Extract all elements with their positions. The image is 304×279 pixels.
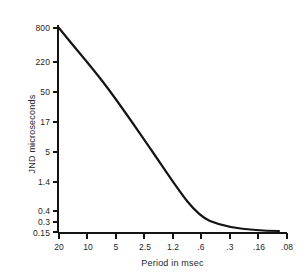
x-axis-title: Period in msec	[58, 258, 287, 268]
x-tick-label: 20	[54, 243, 64, 252]
y-tick-label: 0.15	[6, 229, 50, 238]
x-tick-label: .08	[281, 243, 293, 252]
x-tick-label: .16	[253, 243, 265, 252]
y-axis-title: JND microseconds	[27, 54, 37, 214]
x-tick-label: .3	[226, 243, 233, 252]
chart-figure: 800 220 50 17 5 1.4 0.4 0.3 0.15 20 10 5…	[0, 0, 304, 279]
y-tick-label: 800	[6, 24, 50, 33]
x-tick-label: 1.2	[167, 243, 179, 252]
x-tick-label: 2.5	[139, 243, 151, 252]
data-series-line	[59, 28, 279, 231]
x-tick-label: .6	[197, 243, 204, 252]
x-tick-label: 5	[114, 243, 119, 252]
x-tick-label: 10	[83, 243, 93, 252]
y-tick-label: 0.3	[6, 218, 50, 227]
